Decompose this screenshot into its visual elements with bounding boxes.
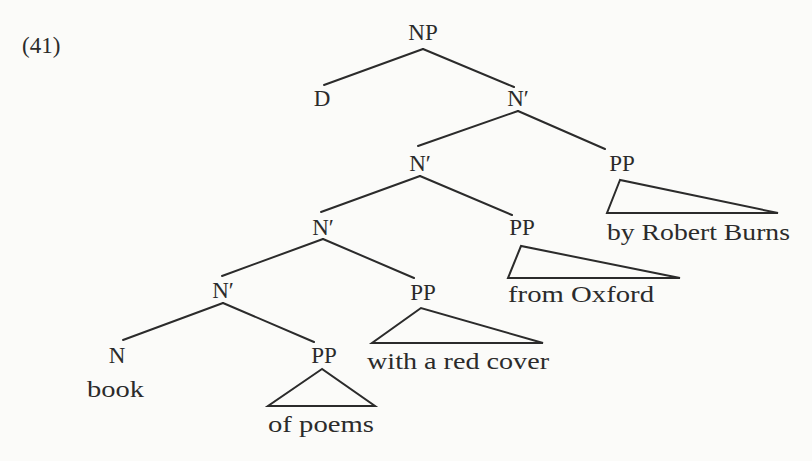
leaf-with-a-red-cover: with a red cover	[367, 349, 549, 374]
edge-nbar2-pp-oxford	[420, 176, 512, 215]
node-np: NP	[408, 20, 437, 45]
node-n: N	[109, 343, 126, 368]
edge-nbar4-n	[123, 303, 223, 340]
triangle-pp-cover	[372, 308, 543, 343]
node-nbar-4: N′	[212, 278, 234, 303]
edge-np-nbar1	[423, 49, 514, 87]
edge-nbar3-pp-cover	[323, 239, 414, 278]
node-pp-poems: PP	[311, 343, 337, 368]
edge-nbar1-nbar2	[418, 111, 518, 146]
leaf-of-poems: of poems	[268, 412, 374, 437]
triangle-pp-poems	[268, 369, 375, 406]
node-nbar-1: N′	[507, 86, 529, 111]
node-nbar-3: N′	[312, 215, 334, 240]
edge-nbar3-nbar4	[222, 239, 323, 276]
node-pp-burns: PP	[609, 151, 635, 176]
triangle-pp-oxford	[508, 246, 680, 278]
example-number: (41)	[22, 33, 60, 58]
node-pp-oxford: PP	[509, 215, 535, 240]
edge-nbar2-nbar3	[321, 176, 420, 212]
leaf-from-oxford: from Oxford	[508, 282, 655, 307]
leaf-by-robert-burns: by Robert Burns	[607, 220, 790, 245]
triangle-pp-burns	[607, 180, 778, 213]
leaf-book: book	[87, 377, 145, 402]
edge-nbar4-pp-poems	[223, 303, 314, 342]
node-pp-cover: PP	[410, 280, 436, 305]
tree-leaves: book of poems with a red cover from Oxfo…	[87, 220, 790, 437]
node-d: D	[314, 86, 331, 111]
node-nbar-2: N′	[409, 151, 431, 176]
edge-nbar1-pp-burns	[518, 111, 605, 149]
syntax-tree-diagram: (41) NP D N′ N′ PP N′ PP N′ PP	[0, 0, 812, 461]
edge-np-d	[324, 49, 423, 85]
